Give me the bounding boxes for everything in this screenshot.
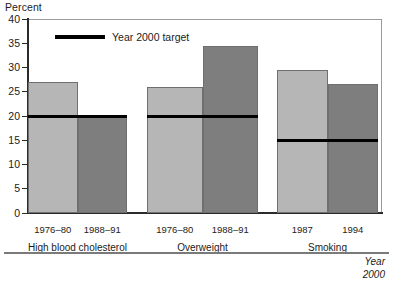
y-tick-label: 0 bbox=[0, 208, 20, 219]
bar bbox=[147, 87, 203, 213]
bar bbox=[328, 84, 379, 213]
y-tick-label: 35 bbox=[0, 38, 20, 49]
y-axis-title: Percent bbox=[5, 1, 42, 13]
target-line bbox=[277, 139, 378, 142]
y-tick-label: 40 bbox=[0, 14, 20, 25]
y-tick-mark bbox=[22, 43, 28, 44]
y-tick-label: 10 bbox=[0, 159, 20, 170]
x-tick-label: 1976–80 bbox=[147, 224, 203, 235]
footer-note: Year 2000 bbox=[315, 256, 385, 281]
y-tick-label: 5 bbox=[0, 183, 20, 194]
x-tick-label: 1988–91 bbox=[203, 224, 259, 235]
footer-note-line1: Year bbox=[315, 256, 385, 269]
x-tick-label: 1987 bbox=[277, 224, 328, 235]
x-tick-label: 1976–80 bbox=[28, 224, 78, 235]
y-tick-label: 30 bbox=[0, 62, 20, 73]
y-tick-label: 15 bbox=[0, 135, 20, 146]
bar bbox=[28, 82, 78, 213]
legend-target-line-icon bbox=[55, 35, 105, 39]
target-line bbox=[147, 115, 258, 118]
y-tick-label: 20 bbox=[0, 111, 20, 122]
target-line bbox=[28, 115, 127, 118]
bar bbox=[78, 116, 128, 213]
footer-divider bbox=[4, 252, 389, 254]
chart-container: Percent 0510152025303540 Year 2000 targe… bbox=[0, 0, 393, 291]
footer-note-line2: 2000 bbox=[315, 269, 385, 282]
legend-target-label: Year 2000 target bbox=[112, 31, 189, 43]
legend: Year 2000 target bbox=[55, 31, 189, 43]
y-tick-label: 25 bbox=[0, 86, 20, 97]
bar bbox=[203, 46, 259, 213]
x-tick-label: 1994 bbox=[328, 224, 379, 235]
y-tick-mark bbox=[22, 19, 28, 20]
y-tick-mark bbox=[22, 67, 28, 68]
x-tick-label: 1988–91 bbox=[78, 224, 128, 235]
